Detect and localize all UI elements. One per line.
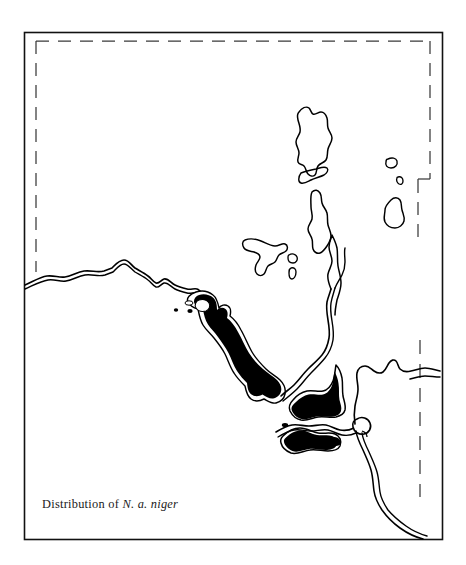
range-lagoon-notch	[195, 300, 210, 312]
range-speck-4	[218, 327, 222, 330]
figure-root: Distribution of N. a. niger	[0, 0, 466, 565]
range-speck-3	[212, 323, 218, 327]
range-speck-2	[174, 308, 178, 311]
range-speck-1	[187, 309, 192, 313]
distribution-map-canvas	[0, 0, 466, 565]
range-lagoon-small	[185, 301, 193, 305]
page-background	[0, 0, 466, 565]
